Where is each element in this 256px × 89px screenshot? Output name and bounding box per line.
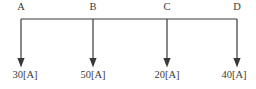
branch-arrow-a [17,19,24,68]
current-label-b: 50[A] [63,70,123,81]
arrowhead-d [233,58,240,68]
arrowhead-b [89,58,96,68]
branch-arrow-d [233,19,240,68]
current-label-c: 20[A] [137,70,197,81]
arrowhead-c [163,58,170,68]
node-label-c: C [147,2,187,13]
node-label-a: A [1,2,41,13]
arrowhead-a [17,58,24,68]
branch-arrow-c [163,19,170,68]
current-label-d: 40[A] [204,70,256,81]
node-label-d: D [217,2,256,13]
branch-arrow-b [89,19,96,68]
bus-branch-diagram: A B C D 30[A] 50[A] 20[A] 40[A] [0,0,256,89]
node-label-b: B [73,2,113,13]
current-label-a: 30[A] [0,70,55,81]
